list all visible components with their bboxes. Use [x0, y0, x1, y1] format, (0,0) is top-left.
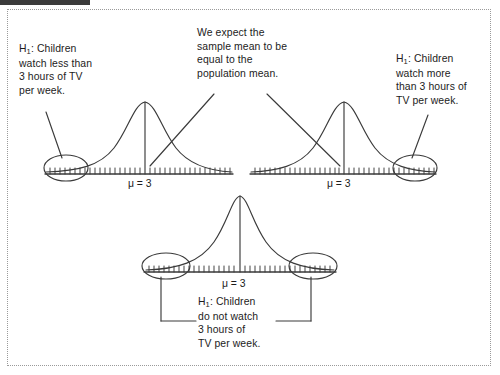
mu-label-left-curve: μ = 3 — [128, 178, 152, 190]
callout-left-tailed-hypothesis: H1: Children watch less than 3 hours of … — [19, 42, 129, 97]
hypothesis-symbol-right: H — [396, 53, 404, 64]
leader-line-right-callout — [412, 115, 428, 158]
hypothesis-subscript-bottom: 1 — [206, 300, 210, 309]
center-callout-leaders — [150, 94, 340, 166]
hypothesis-subscript-right: 1 — [404, 57, 408, 66]
leader-line-center-to-right-mean — [267, 94, 340, 166]
leader-line-left-callout — [46, 112, 62, 158]
mu-label-bottom-curve: μ = 3 — [222, 278, 246, 290]
bell-curve-right — [251, 102, 435, 172]
callout-expected-mean: We expect the sample mean to be equal to… — [197, 26, 317, 80]
hypothesis-symbol-left: H — [19, 43, 27, 54]
panel-left-tailed-test — [44, 102, 233, 181]
mu-label-right-curve: μ = 3 — [327, 178, 351, 190]
callout-center-text: We expect the sample mean to be equal to… — [197, 27, 287, 79]
hypothesis-symbol-bottom: H — [198, 296, 206, 307]
panel-right-tailed-test — [250, 102, 437, 181]
rejection-region-right — [393, 155, 437, 181]
hypothesis-subscript-left: 1 — [27, 47, 31, 56]
callout-two-tailed-hypothesis: H1: Children do not watch 3 hours of TV … — [198, 295, 318, 350]
callout-right-tailed-hypothesis: H1: Children watch more than 3 hours of … — [396, 52, 500, 107]
bell-curve-left — [46, 102, 232, 172]
figure-root: H1: Children watch less than 3 hours of … — [0, 0, 500, 375]
